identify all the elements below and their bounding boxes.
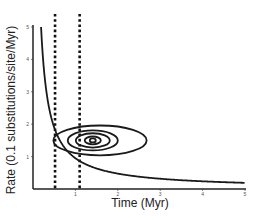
y-tick-labels: 12345 [26, 24, 33, 160]
y-tick-label: 3 [26, 89, 29, 95]
y-tick-label: 4 [26, 56, 29, 62]
contour-5 [90, 138, 96, 142]
x-tick-label: 5 [244, 191, 247, 197]
x-tick-label: 1 [74, 191, 77, 197]
plot-area [41, 14, 245, 189]
y-axis-label: Rate (0.1 substitutions/site/Myr) [4, 26, 18, 195]
chart: 12345 12345 Time (Myr) Rate (0.1 substit… [0, 0, 269, 220]
y-tick-label: 1 [26, 154, 29, 160]
axes [33, 25, 246, 189]
y-tick-label: 5 [26, 24, 29, 30]
rate-curve [41, 27, 245, 183]
x-tick-label: 4 [201, 191, 204, 197]
x-axis-label: Time (Myr) [111, 196, 169, 210]
y-tick-label: 2 [26, 121, 29, 127]
